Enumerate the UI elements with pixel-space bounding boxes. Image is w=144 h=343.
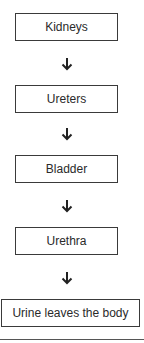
step-bladder: Bladder — [15, 155, 118, 183]
arrow-down-icon — [61, 127, 73, 141]
arrow-down-icon — [61, 271, 73, 285]
step-label: Bladder — [46, 162, 87, 176]
step-label: Ureters — [47, 92, 86, 106]
step-label: Urine leaves the body — [12, 306, 128, 320]
step-ureters: Ureters — [15, 85, 118, 113]
arrow-down-icon — [61, 57, 73, 71]
step-urethra: Urethra — [15, 227, 118, 255]
step-kidneys: Kidneys — [15, 13, 118, 41]
step-label: Urethra — [46, 234, 86, 248]
arrow-down-icon — [61, 199, 73, 213]
step-label: Kidneys — [45, 20, 88, 34]
step-urine-leaves-body: Urine leaves the body — [1, 299, 140, 327]
divider — [0, 339, 144, 340]
